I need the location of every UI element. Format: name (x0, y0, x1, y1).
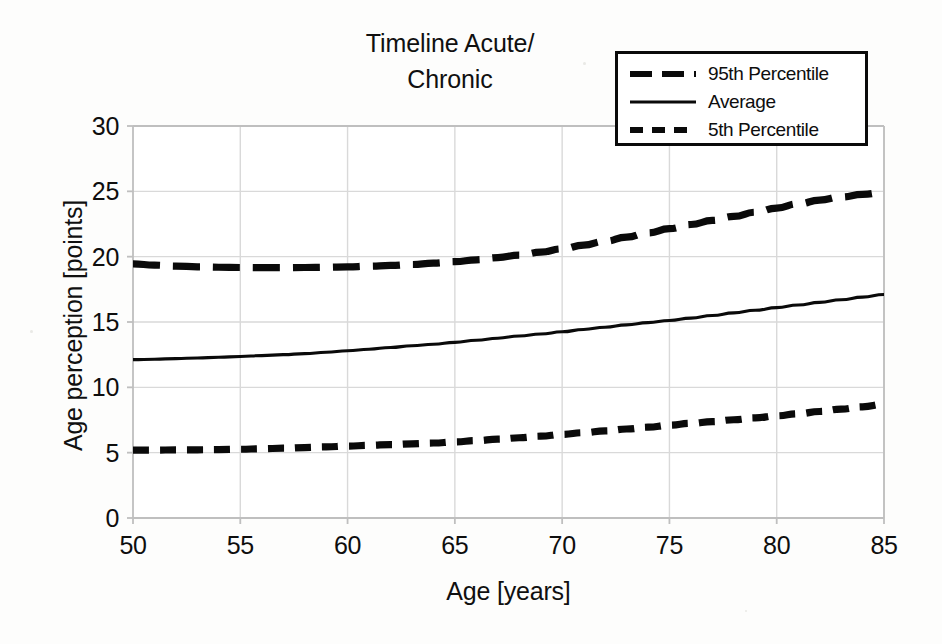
x-tick-label-65: 65 (441, 531, 468, 559)
legend-label-95th: 95th Percentile (708, 63, 829, 85)
y-tick-label-0: 0 (105, 504, 119, 532)
x-tick-label-70: 70 (549, 531, 576, 559)
chart-legend: 95th Percentile Average 5th Percentile (615, 51, 868, 146)
x-axis-title: Age [years] (133, 577, 884, 606)
legend-label-average: Average (708, 91, 776, 113)
y-tick-label-15: 15 (92, 308, 119, 336)
x-tick-label-85: 85 (870, 531, 897, 559)
legend-item-5th[interactable]: 5th Percentile (618, 116, 865, 144)
legend-swatch-long-dash (629, 67, 697, 81)
x-tick-label-75: 75 (656, 531, 683, 559)
y-tick-label-5: 5 (105, 439, 119, 467)
legend-label-5th: 5th Percentile (708, 119, 819, 141)
y-tick-label-30: 30 (92, 112, 119, 140)
y-axis-title: Age perception [points] (59, 126, 88, 526)
y-tick-label-10: 10 (92, 373, 119, 401)
chart-figure: Timeline Acute/ Chronic 0510152025305055… (0, 0, 942, 644)
y-tick-label-20: 20 (92, 243, 119, 271)
legend-item-95th[interactable]: 95th Percentile (618, 60, 865, 88)
y-tick-label-25: 25 (92, 177, 119, 205)
legend-swatch-short-dash (629, 123, 697, 137)
x-tick-label-50: 50 (119, 531, 146, 559)
x-tick-label-60: 60 (334, 531, 361, 559)
legend-item-average[interactable]: Average (618, 88, 865, 116)
x-tick-label-55: 55 (227, 531, 254, 559)
x-tick-label-80: 80 (763, 531, 790, 559)
legend-swatch-solid (629, 95, 697, 109)
